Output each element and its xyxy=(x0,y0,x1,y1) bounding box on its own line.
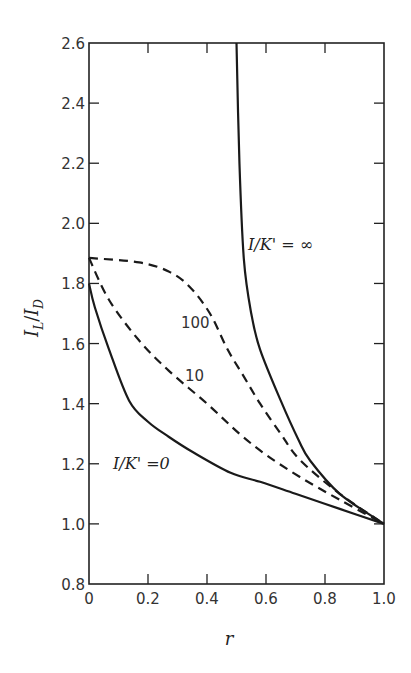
y-tick-label: 1.8 xyxy=(61,275,85,293)
y-axis-title: IL/ID xyxy=(21,299,46,338)
y-tick-label: 1.2 xyxy=(61,456,85,474)
curve-100 xyxy=(89,258,384,524)
chart: 0.81.01.21.41.61.82.02.22.42.6 00.20.40.… xyxy=(0,0,411,673)
y-tick-label: 0.8 xyxy=(61,576,85,594)
curve-i-k-0 xyxy=(89,283,384,523)
annotation-infinity: I/K' = ∞ xyxy=(247,235,313,254)
x-tick-label: 0.4 xyxy=(195,590,219,608)
x-tick-label: 0 xyxy=(84,590,94,608)
y-tick-labels: 0.81.01.21.41.61.82.02.22.42.6 xyxy=(61,35,85,594)
y-tick-label: 1.4 xyxy=(61,396,85,414)
annotation-zero: I/K' =0 xyxy=(112,454,170,473)
annotation-10: 10 xyxy=(185,367,204,385)
y-tick-label: 2.2 xyxy=(61,155,85,173)
plot-frame xyxy=(89,43,384,584)
y-tick-label: 2.4 xyxy=(61,95,85,113)
curve-10 xyxy=(89,258,384,524)
annotation-100: 100 xyxy=(181,314,210,332)
y-tick-label: 1.0 xyxy=(61,516,85,534)
x-tick-label: 0.8 xyxy=(313,590,337,608)
axis-ticks xyxy=(89,43,384,584)
x-axis-title: r xyxy=(225,628,235,649)
y-tick-label: 1.6 xyxy=(61,336,85,354)
y-tick-label: 2.6 xyxy=(61,35,85,53)
x-tick-labels: 00.20.40.60.81.0 xyxy=(84,590,396,608)
x-tick-label: 1.0 xyxy=(372,590,396,608)
y-tick-label: 2.0 xyxy=(61,215,85,233)
curve-i-k- xyxy=(237,43,385,524)
x-tick-label: 0.2 xyxy=(136,590,160,608)
x-tick-label: 0.6 xyxy=(254,590,278,608)
curves xyxy=(89,43,384,524)
